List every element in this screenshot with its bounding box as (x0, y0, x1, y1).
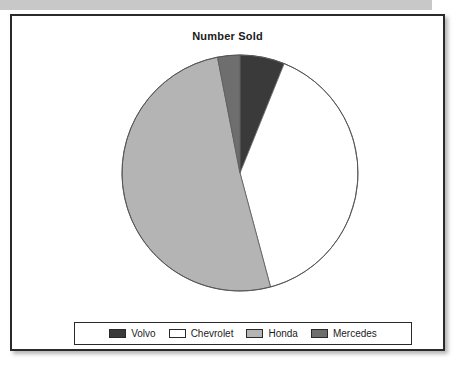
legend-swatch-honda (246, 329, 263, 338)
legend-item-mercedes: Mercedes (311, 328, 377, 339)
pie-chart (115, 48, 365, 298)
legend-swatch-volvo (109, 329, 126, 338)
legend-label: Mercedes (333, 328, 377, 339)
legend-label: Volvo (131, 328, 155, 339)
legend-label: Honda (268, 328, 297, 339)
chart-legend: VolvoChevroletHondaMercedes (74, 322, 412, 345)
legend-item-chevrolet: Chevrolet (169, 328, 234, 339)
legend-swatch-mercedes (311, 329, 328, 338)
chart-panel: Number Sold VolvoChevroletHondaMercedes (10, 14, 445, 351)
legend-item-volvo: Volvo (109, 328, 155, 339)
scan-top-band-gap (432, 0, 460, 10)
legend-label: Chevrolet (191, 328, 234, 339)
legend-swatch-chevrolet (169, 329, 186, 338)
chart-title: Number Sold (12, 30, 443, 42)
pie-chart-svg (115, 48, 365, 298)
legend-item-honda: Honda (246, 328, 297, 339)
scan-top-band (0, 0, 460, 10)
